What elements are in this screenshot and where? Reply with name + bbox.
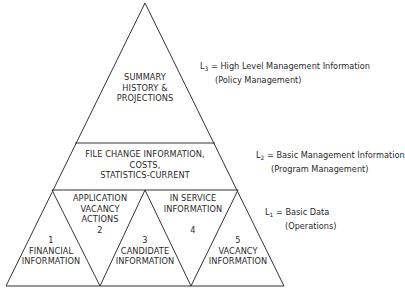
legend-l1: L1 = Basic Data (Operations): [265, 207, 336, 231]
level3-content: SUMMARY HISTORY & PROJECTIONS: [95, 72, 195, 104]
legend-l2: L2 = Basic Management Information (Progr…: [256, 150, 405, 174]
segment-2: APPLICATION VACANCY ACTIONS 2: [62, 193, 138, 235]
segment-4: IN SERVICE INFORMATION 4: [155, 193, 231, 235]
segment-5: 5 VACANCY INFORMATION: [200, 235, 276, 267]
segment-1: 1 FINANCIAL INFORMATION: [16, 235, 86, 267]
segment-3: 3 CANDIDATE INFORMATION: [108, 235, 182, 267]
legend-l3: L3 = High Level Management Information (…: [200, 61, 370, 85]
level2-content: FILE CHANGE INFORMATION, COSTS, STATISTI…: [55, 149, 235, 181]
